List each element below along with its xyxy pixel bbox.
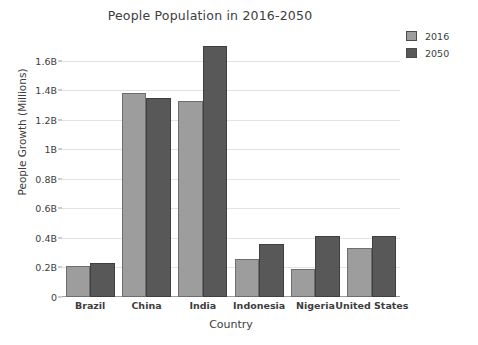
chart-legend: 20162050 bbox=[406, 29, 449, 63]
y-tick-label: 0.2B bbox=[35, 262, 57, 273]
bar-nigeria-2050 bbox=[315, 236, 340, 297]
bar-indonesia-2050 bbox=[259, 244, 284, 297]
legend-label: 2050 bbox=[425, 48, 449, 59]
bar-group: India bbox=[175, 43, 231, 297]
bar-china-2016 bbox=[122, 93, 147, 297]
bar-united-states-2050 bbox=[372, 236, 397, 297]
y-tick-label: 0.8B bbox=[35, 173, 57, 184]
x-axis-title: Country bbox=[62, 318, 400, 331]
y-tick-label: 0.4B bbox=[35, 232, 57, 243]
chart-title: People Population in 2016-2050 bbox=[0, 8, 420, 23]
plot-area: 00.2B0.4B0.6B0.8B1B1.2B1.4B1.6BBrazilChi… bbox=[62, 43, 400, 297]
bar-nigeria-2016 bbox=[291, 269, 316, 297]
legend-item-2050: 2050 bbox=[406, 46, 449, 60]
x-tick-label: Nigeria bbox=[296, 300, 335, 311]
bar-united-states-2016 bbox=[347, 248, 372, 297]
bar-brazil-2050 bbox=[90, 263, 115, 297]
y-tick-label: 1.6B bbox=[35, 55, 57, 66]
x-tick-label: Brazil bbox=[75, 300, 105, 311]
bar-brazil-2016 bbox=[66, 266, 91, 297]
x-tick-label: United States bbox=[335, 300, 408, 311]
y-tick-label: 0 bbox=[51, 292, 57, 303]
x-tick-label: India bbox=[189, 300, 216, 311]
chart-figure: People Population in 2016-2050 20162050 … bbox=[0, 0, 478, 345]
bar-group: Nigeria bbox=[287, 43, 343, 297]
y-axis-title: People Growth (Millions) bbox=[16, 47, 28, 217]
y-tick-label: 1.2B bbox=[35, 114, 57, 125]
legend-item-2016: 2016 bbox=[406, 29, 449, 43]
legend-swatch-icon bbox=[406, 31, 417, 41]
bar-india-2050 bbox=[203, 46, 228, 297]
y-tick-label: 1.4B bbox=[35, 85, 57, 96]
bar-group: China bbox=[118, 43, 174, 297]
bar-group: Indonesia bbox=[231, 43, 287, 297]
bar-group: Brazil bbox=[62, 43, 118, 297]
x-tick-label: China bbox=[131, 300, 161, 311]
legend-label: 2016 bbox=[425, 31, 449, 42]
bar-indonesia-2016 bbox=[235, 259, 260, 297]
bar-india-2016 bbox=[178, 101, 203, 297]
y-tick-label: 1B bbox=[44, 144, 57, 155]
y-tick-label: 0.6B bbox=[35, 203, 57, 214]
bar-group: United States bbox=[344, 43, 400, 297]
x-tick-label: Indonesia bbox=[233, 300, 285, 311]
legend-swatch-icon bbox=[406, 48, 417, 58]
bar-china-2050 bbox=[146, 98, 171, 297]
